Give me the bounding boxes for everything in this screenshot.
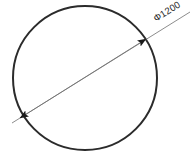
circle-outline bbox=[13, 6, 157, 150]
diameter-dimension-line bbox=[20, 39, 146, 118]
technical-drawing-canvas: Φ1200 bbox=[0, 0, 192, 158]
drawing-svg: Φ1200 bbox=[0, 0, 192, 158]
